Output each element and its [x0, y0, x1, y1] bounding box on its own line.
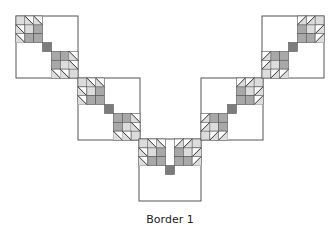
block-2: [78, 78, 140, 140]
block-1: [16, 16, 78, 78]
block-4: [201, 78, 263, 140]
figure-caption: Border 1: [0, 213, 333, 226]
block-3: [139, 139, 201, 201]
block-5: [262, 16, 324, 78]
border-diagram: [0, 0, 333, 231]
